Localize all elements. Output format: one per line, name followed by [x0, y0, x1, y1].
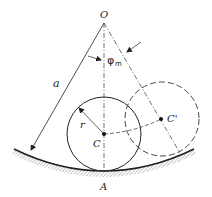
- center-c-point: [102, 132, 106, 136]
- label-a-point: A: [99, 181, 107, 192]
- angle-arrow-left: [88, 56, 101, 60]
- angle-arrow-right: [127, 42, 141, 52]
- rolling-cylinder-diagram: O a r C C' A φ m: [0, 0, 212, 197]
- center-c-prime-point: [159, 117, 163, 121]
- label-phi-subscript: m: [115, 60, 122, 68]
- label-c-prime: C': [167, 113, 177, 124]
- center-path: [104, 119, 161, 134]
- label-o: O: [100, 9, 108, 20]
- label-a-radius: a: [53, 77, 60, 90]
- label-c: C: [93, 138, 101, 149]
- label-r: r: [80, 119, 86, 130]
- displaced-centerline: [104, 23, 180, 153]
- label-phi: φ: [107, 54, 114, 67]
